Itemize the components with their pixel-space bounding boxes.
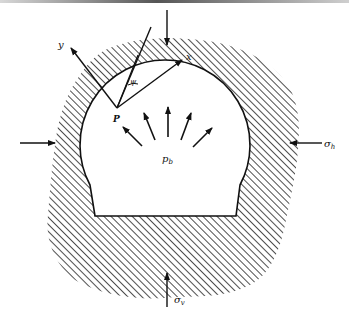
tunnel-stress-diagram: y x ψ P pb σh σv <box>0 0 349 324</box>
horizontal-stress-label: σh <box>324 138 335 151</box>
x-axis-label: x <box>186 51 192 62</box>
y-axis-label: y <box>57 39 64 50</box>
angle-psi-label: ψ <box>130 77 137 86</box>
rock-mass-hatched-region <box>47 38 299 298</box>
point-p-label: P <box>112 114 120 124</box>
